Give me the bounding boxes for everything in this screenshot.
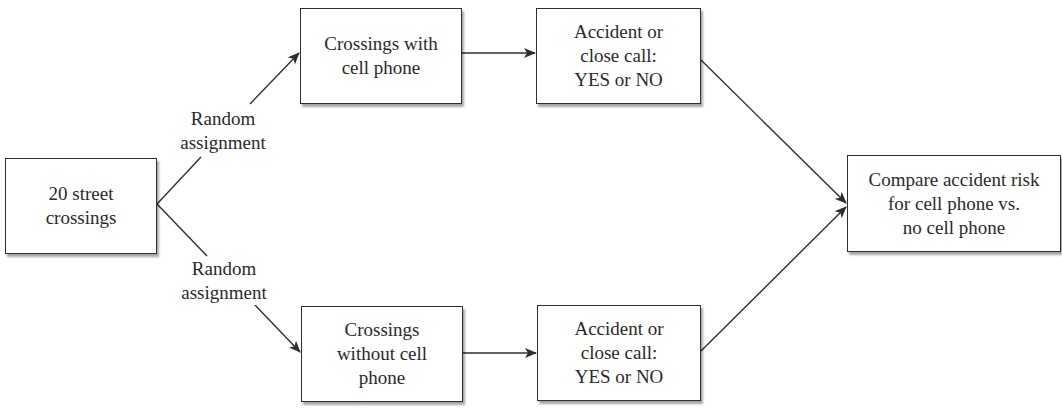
node-compare-accident-risk: Compare accident risk for cell phone vs.… bbox=[847, 155, 1061, 252]
node-outcome-with-phone: Accident or close call: YES or NO bbox=[536, 8, 701, 104]
node-crossings-with-cell-phone: Crossings with cell phone bbox=[300, 8, 462, 104]
edge-start-to-with-phone-arrow bbox=[250, 53, 299, 104]
node-text: Accident or close call: YES or NO bbox=[574, 317, 663, 389]
edge-label-lower-random-assignment: Random assignment bbox=[179, 257, 269, 305]
edge-start-to-without-phone-arrow bbox=[254, 304, 300, 352]
node-text: Crossings without cell phone bbox=[337, 318, 427, 390]
node-text: Compare accident risk for cell phone vs.… bbox=[869, 168, 1040, 240]
edge-outcome-without-to-compare bbox=[701, 207, 846, 351]
edge-start-to-without-phone-upper-segment bbox=[157, 204, 207, 256]
edge-start-to-with-phone-lower-segment bbox=[157, 157, 201, 204]
node-text: Accident or close call: YES or NO bbox=[574, 20, 663, 92]
edge-label-upper-random-assignment: Random assignment bbox=[178, 107, 268, 155]
node-20-street-crossings: 20 street crossings bbox=[5, 158, 157, 254]
edge-outcome-with-to-compare bbox=[701, 60, 846, 203]
node-text: 20 street crossings bbox=[46, 182, 117, 230]
node-text: Crossings with cell phone bbox=[324, 32, 438, 80]
node-crossings-without-cell-phone: Crossings without cell phone bbox=[301, 306, 463, 402]
node-outcome-without-phone: Accident or close call: YES or NO bbox=[537, 305, 701, 401]
